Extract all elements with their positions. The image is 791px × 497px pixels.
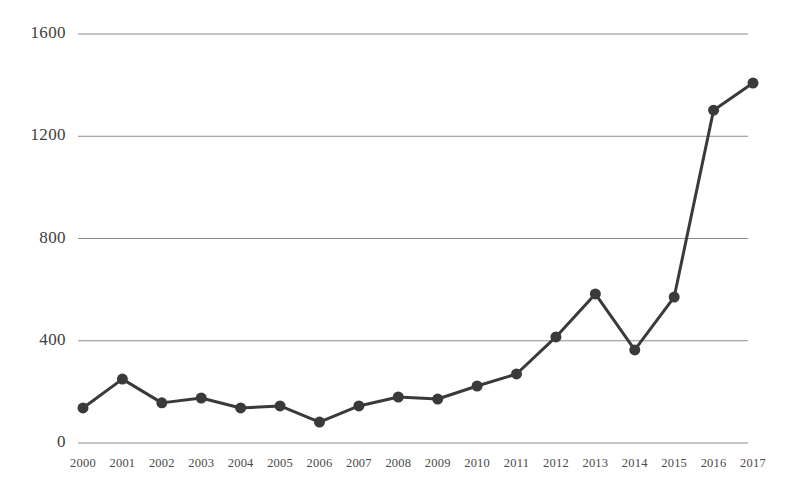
- data-point-marker: [78, 402, 89, 413]
- x-axis-tick-label: 2006: [307, 456, 333, 471]
- data-point-marker: [511, 368, 522, 379]
- plot-area: 040080012001600 200020012002200320042005…: [0, 0, 791, 497]
- x-axis-tick-label: 2001: [110, 456, 136, 471]
- x-axis-tick-label: 2013: [582, 456, 608, 471]
- x-axis-tick-label: 2011: [504, 456, 529, 471]
- data-point-marker: [629, 344, 640, 355]
- x-axis-tick-label: 2002: [149, 456, 175, 471]
- x-axis-tick-label: 2005: [267, 456, 293, 471]
- x-axis-tick-label: 2010: [464, 456, 490, 471]
- line-chart: 040080012001600 200020012002200320042005…: [0, 0, 791, 497]
- data-point-marker: [550, 331, 561, 342]
- x-axis-tick-label: 2015: [661, 456, 687, 471]
- data-point-marker: [472, 380, 483, 391]
- x-axis-tick-label: 2007: [346, 456, 372, 471]
- x-axis-tick-label: 2016: [701, 456, 727, 471]
- data-series-layer: [0, 0, 791, 497]
- data-point-marker: [748, 78, 759, 89]
- data-point-marker: [393, 391, 404, 402]
- data-point-marker: [432, 394, 443, 405]
- x-axis-tick-label: 2017: [740, 456, 766, 471]
- x-axis-tick-label: 2012: [543, 456, 569, 471]
- x-axis-tick-label: 2003: [188, 456, 214, 471]
- series-markers: [78, 78, 759, 428]
- data-point-marker: [590, 288, 601, 299]
- data-point-marker: [314, 417, 325, 428]
- data-point-marker: [156, 397, 167, 408]
- data-point-marker: [196, 393, 207, 404]
- x-axis-tick-label: 2004: [228, 456, 254, 471]
- x-axis-tick-label: 2014: [622, 456, 648, 471]
- data-point-marker: [235, 402, 246, 413]
- data-point-marker: [708, 105, 719, 116]
- data-point-marker: [275, 400, 286, 411]
- data-point-marker: [353, 400, 364, 411]
- series-line: [83, 83, 753, 422]
- data-point-marker: [117, 374, 128, 385]
- x-axis-tick-label: 2000: [70, 456, 96, 471]
- x-axis-tick-label: 2009: [425, 456, 451, 471]
- x-axis-tick-label: 2008: [385, 456, 411, 471]
- data-point-marker: [669, 292, 680, 303]
